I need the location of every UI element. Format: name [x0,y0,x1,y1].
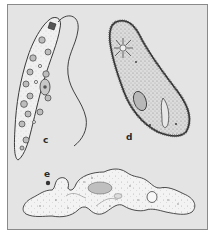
organism-e-nucleus [88,182,112,194]
protozoa-figure: c d e [0,0,213,238]
label-d: d [126,133,132,142]
organism-c-nucleolus [43,85,47,89]
organism-d-paramecium [110,21,190,136]
illustration-canvas [0,0,213,238]
label-c: c [43,136,48,145]
organism-e-contractile-vacuole [147,192,157,203]
organism-d-body [110,21,190,136]
label-e: e [44,170,50,179]
organism-e-particle [46,181,50,185]
organism-e-food-vacuole [114,194,122,199]
organism-c-flagellum [58,16,86,146]
organism-c-flagellate [14,16,86,160]
organism-c-body [14,17,60,160]
